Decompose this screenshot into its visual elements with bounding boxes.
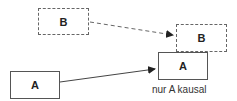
solid-arrow-a-to-a: [60, 69, 155, 82]
node-a-future: A: [158, 52, 208, 80]
node-a-past: A: [10, 71, 60, 99]
dashed-arrow-b-to-b: [90, 22, 173, 35]
node-b-past: B: [38, 8, 89, 35]
caption-label: nur A kausal: [152, 84, 206, 95]
node-a-past-label: A: [31, 79, 39, 91]
node-b-future-label: B: [198, 32, 206, 44]
node-b-future: B: [176, 24, 227, 52]
node-a-future-label: A: [179, 60, 187, 72]
node-b-past-label: B: [60, 16, 68, 28]
